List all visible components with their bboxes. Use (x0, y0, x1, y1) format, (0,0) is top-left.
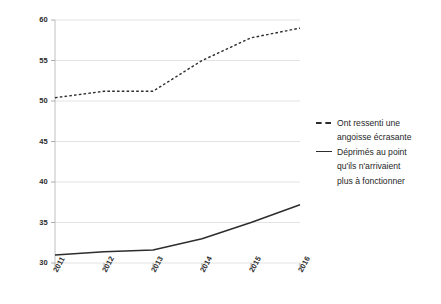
solid-line-icon (316, 151, 332, 153)
x-tick-label-2011: 2011 (52, 256, 66, 274)
legend-label-anxiety-line-2: angoisse écrasante (337, 130, 441, 144)
line-chart-figure: 60 55 50 45 40 35 30 2011 2012 2013 2014… (0, 0, 441, 304)
legend-label-anxiety: Ont ressenti une angoisse écrasante (337, 116, 441, 145)
dashed-line-icon (316, 122, 331, 126)
legend-entry-anxiety: Ont ressenti une angoisse écrasante (316, 116, 441, 145)
legend-label-anxiety-line-1: Ont ressenti une (337, 116, 441, 130)
x-tick-label-2016: 2016 (297, 255, 311, 273)
x-tick-label-2013: 2013 (150, 255, 164, 273)
legend-label-depression-line-2: qu'ils n'arrivaient (337, 159, 441, 173)
chart-legend: Ont ressenti une angoisse écrasante Dépr… (316, 116, 441, 188)
x-tick-label-2014: 2014 (199, 255, 213, 273)
x-tick-label-2015: 2015 (248, 255, 262, 273)
legend-label-depression-line-3: plus à fonctionner (337, 174, 441, 188)
x-tick-label-2012: 2012 (101, 255, 115, 273)
legend-label-depression-line-1: Déprimés au point (337, 145, 441, 159)
legend-entry-depression: Déprimés au point qu'ils n'arrivaient pl… (316, 145, 441, 188)
legend-label-depression: Déprimés au point qu'ils n'arrivaient pl… (337, 145, 441, 188)
